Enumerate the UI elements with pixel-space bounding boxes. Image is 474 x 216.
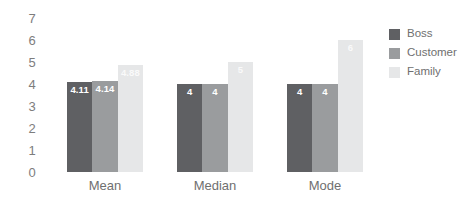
bar-fill: 4: [312, 84, 337, 172]
chart-legend: BossCustomerFamily: [389, 26, 471, 83]
bar-value-label: 4: [312, 87, 337, 97]
bar-value-label: 4.11: [67, 85, 92, 95]
bar-value-label: 6: [338, 43, 363, 53]
bar-group: 4.114.144.88Mean: [67, 18, 143, 172]
bar-value-label: 4.88: [118, 68, 143, 78]
legend-label: Customer: [407, 47, 457, 59]
y-axis-tick: 7: [29, 11, 36, 26]
bar-chart: 01234567 4.114.144.88Mean445Median446Mod…: [0, 0, 474, 216]
bar-group-bars: 4.114.144.88: [67, 18, 143, 172]
y-axis-tick: 6: [29, 33, 36, 48]
y-axis-tick: 4: [29, 77, 36, 92]
bar-fill: 4.14: [92, 81, 117, 172]
bar-fill: 4: [202, 84, 227, 172]
legend-swatch-icon: [389, 67, 400, 78]
x-axis-category-label: Mean: [67, 178, 143, 193]
legend-item[interactable]: Customer: [389, 45, 471, 61]
y-axis-tick: 1: [29, 143, 36, 158]
y-axis-tick: 0: [29, 165, 36, 180]
bar-group: 446Mode: [287, 18, 363, 172]
legend-label: Boss: [407, 28, 433, 40]
bar-fill: 4.88: [118, 65, 143, 172]
bar-group-bars: 446: [287, 18, 363, 172]
bar-value-label: 5: [228, 65, 253, 75]
y-axis-tick: 3: [29, 99, 36, 114]
plot-area: 4.114.144.88Mean445Median446Mode: [50, 18, 380, 172]
legend-label: Family: [407, 66, 441, 78]
bar-value-label: 4.14: [92, 84, 117, 94]
legend-swatch-icon: [389, 48, 400, 59]
legend-item[interactable]: Family: [389, 64, 471, 80]
legend-item[interactable]: Boss: [389, 26, 471, 42]
bar-value-label: 4: [202, 87, 227, 97]
bar-fill: 4: [287, 84, 312, 172]
bar-group-bars: 445: [177, 18, 253, 172]
legend-swatch-icon: [389, 29, 400, 40]
bar-fill: 6: [338, 40, 363, 172]
bar-value-label: 4: [177, 87, 202, 97]
bar-fill: 5: [228, 62, 253, 172]
bar-fill: 4.11: [67, 82, 92, 172]
x-axis-category-label: Median: [177, 178, 253, 193]
y-axis: 01234567: [0, 18, 46, 172]
bar-value-label: 4: [287, 87, 312, 97]
bar-group: 445Median: [177, 18, 253, 172]
bar-fill: 4: [177, 84, 202, 172]
y-axis-tick: 2: [29, 121, 36, 136]
y-axis-tick: 5: [29, 55, 36, 70]
x-axis-category-label: Mode: [287, 178, 363, 193]
